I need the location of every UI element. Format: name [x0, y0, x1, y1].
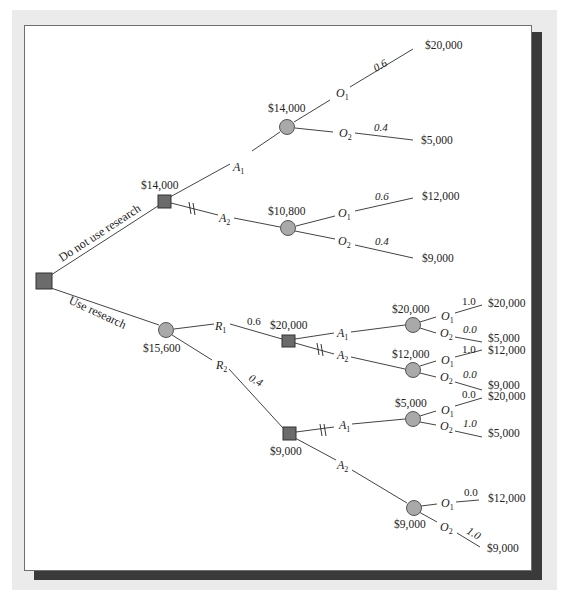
- edge-o2: [295, 128, 333, 132]
- chance-node-r2-a2: [407, 501, 422, 516]
- decision-node-r2: [283, 427, 296, 440]
- branch-label-o1: O1: [441, 403, 454, 419]
- node-value: $14,000: [268, 102, 306, 115]
- edge-a1: [352, 419, 405, 424]
- edge-nr-a2-b: [234, 218, 280, 227]
- payoff: $12,000: [422, 190, 460, 203]
- edge-o2: [420, 422, 436, 425]
- edge-a2: [352, 470, 407, 503]
- node-value: $15,600: [143, 342, 181, 355]
- branch-label-r1: R1: [214, 319, 226, 335]
- probability: 1.0: [462, 295, 476, 307]
- probability: 0.6: [371, 56, 389, 74]
- edge-r1: [174, 324, 214, 329]
- branch-label-a1: A1: [336, 326, 348, 342]
- payoff: $12,000: [488, 492, 526, 505]
- edge-o1: [456, 500, 479, 502]
- branch-label-a1: A1: [338, 418, 350, 434]
- edge-nr-a1-a: [170, 164, 230, 197]
- branch-label-o1: O1: [336, 86, 349, 102]
- chance-node-r1-a2: [406, 363, 421, 378]
- edge-o1: [420, 361, 436, 366]
- node-value: $20,000: [270, 319, 308, 332]
- chance-node-r2-a1: [406, 412, 421, 427]
- chance-node-r1-a1: [406, 318, 421, 333]
- edge-no-research: [51, 206, 158, 275]
- edge-o2: [420, 328, 436, 333]
- node-value: $10,800: [268, 205, 306, 218]
- branch-label-o1: O1: [441, 309, 454, 325]
- edge-o1: [420, 317, 436, 322]
- edge-o2: [355, 133, 413, 140]
- branch-label-a2: A2: [336, 348, 348, 364]
- decision-node-r1: [282, 335, 295, 347]
- payoff: $9,000: [422, 252, 454, 265]
- node-value: $9,000: [270, 445, 302, 458]
- edge-o1: [420, 411, 436, 416]
- node-value: $14,000: [141, 179, 179, 192]
- payoff: $9,000: [487, 542, 519, 555]
- branch-label-o1: O1: [338, 206, 351, 222]
- chance-node-nr-a1: [280, 120, 295, 135]
- branch-label-o2: O2: [339, 126, 352, 142]
- payoff: $5,000: [488, 427, 520, 440]
- edge-o1: [296, 216, 335, 226]
- root-decision-node: [36, 273, 52, 289]
- branch-label-o1: O1: [441, 496, 454, 512]
- edge-a1: [351, 325, 405, 332]
- probability: 0.0: [463, 323, 477, 335]
- node-value: $5,000: [395, 397, 427, 410]
- branch-label-a1: A1: [232, 160, 244, 176]
- chance-node-research: [159, 323, 174, 338]
- probability: 0.4: [247, 371, 265, 389]
- probability: 0.4: [375, 235, 389, 247]
- decision-tree: Do not use research Use research $14,000…: [0, 0, 561, 594]
- probability: 0.6: [247, 315, 261, 327]
- probability: 1.0: [462, 343, 476, 355]
- probability: 0.0: [463, 368, 477, 380]
- edge-a2: [295, 343, 334, 354]
- branch-label-o1: O1: [441, 353, 454, 369]
- branch-label-o2: O2: [440, 520, 453, 536]
- chance-node-nr-a2: [281, 221, 296, 236]
- edge-a1: [296, 427, 334, 432]
- probability: 0.0: [462, 388, 476, 400]
- branch-label-a2: A2: [218, 211, 230, 227]
- probability: 1.0: [463, 417, 477, 429]
- branch-label-research: Use research: [67, 293, 129, 332]
- payoff: $12,000: [488, 344, 526, 357]
- branch-label-o2: O2: [440, 419, 453, 435]
- edge-nr-a1-b: [252, 132, 280, 151]
- node-value: $12,000: [392, 348, 430, 361]
- probability: 0.0: [464, 486, 478, 498]
- edge-o2: [455, 431, 482, 437]
- edge-o2: [295, 231, 335, 239]
- probability: 0.6: [375, 190, 389, 202]
- branch-label-o2: O2: [440, 370, 453, 386]
- prune-mark: [324, 424, 326, 436]
- node-value: $9,000: [394, 518, 426, 531]
- probability: 0.4: [374, 121, 388, 133]
- edge-o1: [421, 504, 437, 506]
- branch-label-a2: A2: [336, 458, 348, 474]
- payoff: $20,000: [488, 390, 526, 403]
- branch-label-o2: O2: [440, 326, 453, 342]
- branch-label-no-research: Do not use research: [56, 201, 143, 264]
- payoff: $20,000: [425, 39, 463, 52]
- decision-node-no-research: [158, 195, 171, 208]
- edge-o2: [455, 337, 482, 342]
- payoff: $5,000: [421, 134, 453, 147]
- branch-label-r2: R2: [215, 358, 227, 374]
- edge-a1: [295, 333, 334, 339]
- payoff: $20,000: [488, 297, 526, 310]
- branch-label-o2: O2: [338, 234, 351, 250]
- prune-mark: [320, 424, 322, 436]
- edge-o2: [420, 373, 436, 377]
- node-value: $20,000: [392, 303, 430, 316]
